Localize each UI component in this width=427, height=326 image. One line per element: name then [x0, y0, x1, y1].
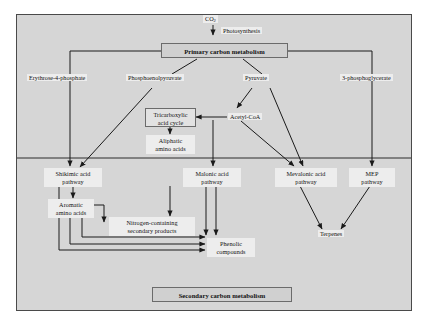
node-terpenes: Terpenes	[318, 230, 344, 237]
phenolic-line-1: Phenolic	[220, 240, 242, 247]
node-malonic-acid-pathway: Malonic acid pathway	[183, 168, 241, 187]
tca-line-2: acid cycle	[158, 119, 183, 126]
node-nitrogen-containing-secondary-products: Nitrogen-containing secondary products	[109, 217, 195, 236]
co2-text: CO	[205, 15, 214, 22]
node-phenolic-compounds: Phenolic compounds	[207, 238, 255, 257]
node-mep-pathway: MEP pathway	[349, 168, 395, 187]
aromatic-line-2: amino acids	[56, 209, 86, 216]
shikimic-line-2: pathway	[62, 178, 83, 185]
node-pyruvate: Pyruvate	[243, 74, 269, 81]
aliphatic-line-1: Aliphatic	[159, 137, 182, 144]
malonic-line-2: pathway	[201, 178, 222, 185]
secondary-carbon-metabolism-box: Secondary carbon metabolism	[152, 287, 292, 302]
aliphatic-line-2: amino acids	[155, 145, 185, 152]
node-tricarboxylic-acid-cycle: Tricarboxylic acid cycle	[145, 108, 196, 127]
node-aromatic-amino-acids: Aromatic amino acids	[48, 199, 94, 218]
co2-subscript: 2	[214, 18, 216, 23]
mevalonic-line-2: pathway	[295, 178, 316, 185]
node-aliphatic-amino-acids: Aliphatic amino acids	[146, 135, 195, 154]
primary-carbon-metabolism-box: Primary carbon metabolism	[161, 43, 288, 58]
node-phosphoenolpyruvate: Phosphoenolpyruvate	[126, 74, 184, 81]
node-erythrose-4-phosphate: Erythrose-4-phosphate	[27, 74, 87, 81]
node-shikimic-acid-pathway: Shikimic acid pathway	[44, 168, 102, 187]
diagram-root: CO2 Photosynthesis Primary carbon metabo…	[0, 0, 427, 326]
node-mevalonic-acid-pathway: Mevalonic acid pathway	[275, 168, 337, 187]
nitrogen-line-1: Nitrogen-containing	[126, 219, 177, 226]
mep-line-2: pathway	[361, 178, 382, 185]
nitrogen-line-2: secondary products	[128, 227, 177, 234]
node-3-phosphoglycerate: 3-phosphoglycerate	[340, 74, 393, 81]
photosynthesis-label: Photosynthesis	[221, 27, 262, 34]
shikimic-line-1: Shikimic acid	[56, 170, 91, 177]
tca-line-1: Tricarboxylic	[153, 111, 187, 118]
aromatic-line-1: Aromatic	[59, 201, 83, 208]
node-acetyl-coa: Acetyl-CoA	[228, 113, 262, 120]
mep-line-1: MEP	[366, 170, 379, 177]
malonic-line-1: Malonic acid	[195, 170, 228, 177]
co2-label: CO2	[203, 15, 218, 23]
mevalonic-line-1: Mevalonic acid	[286, 170, 325, 177]
phenolic-line-2: compounds	[217, 248, 246, 255]
diagram-frame	[16, 14, 412, 311]
